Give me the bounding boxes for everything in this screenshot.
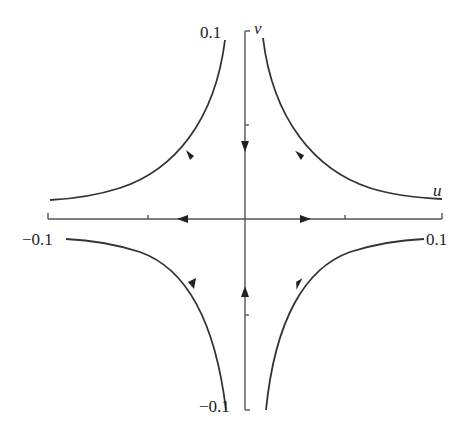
x-max-label: 0.1 bbox=[426, 230, 447, 249]
x-min-label: −0.1 bbox=[22, 230, 53, 249]
v-axis bbox=[245, 31, 250, 410]
phase-portrait: 0.1 v u −0.1 0.1 −0.1 bbox=[0, 0, 472, 437]
arrow-icon-v-down bbox=[241, 141, 249, 152]
arrow-icon-ur bbox=[295, 149, 305, 160]
y-max-label: 0.1 bbox=[200, 23, 221, 42]
arrow-icon-ul bbox=[186, 150, 194, 160]
arrow-icon-u-left bbox=[177, 215, 188, 223]
v-axis-label: v bbox=[254, 19, 262, 38]
arrow-icon-v-up bbox=[241, 286, 249, 297]
y-min-label: −0.1 bbox=[199, 397, 230, 416]
trajectory-upper-right bbox=[263, 38, 442, 199]
trajectory-lower-left bbox=[66, 239, 226, 410]
arrow-icon-u-right bbox=[300, 215, 311, 223]
trajectory-lower-right bbox=[266, 239, 424, 410]
arrow-icon-lr bbox=[295, 278, 302, 290]
u-axis-label: u bbox=[433, 181, 442, 200]
trajectory-upper-left bbox=[50, 40, 225, 200]
arrow-icon-ll bbox=[188, 278, 196, 289]
